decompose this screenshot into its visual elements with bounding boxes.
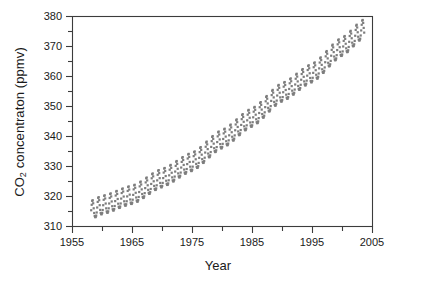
data-point [167,182,169,184]
data-point [234,134,236,136]
x-tick-label: 1965 [110,237,154,248]
data-point [315,69,317,71]
x-tick-label: 2005 [350,237,394,248]
data-point [149,191,151,193]
data-point [297,80,299,82]
data-point [165,175,167,177]
data-point [248,112,250,114]
data-point [219,138,221,140]
data-point [309,77,311,79]
data-point [156,179,158,181]
data-point [102,209,104,211]
data-point [221,146,223,148]
data-point [205,146,207,148]
data-point [305,83,307,85]
data-point [288,88,290,90]
data-point [99,204,101,206]
data-point [325,55,327,57]
co2-concentration-chart: CO2 concentraton (ppmv) Year 31032033034… [0,0,424,286]
data-point [300,79,302,81]
data-point [146,179,148,181]
data-point [357,31,359,33]
data-point [231,131,233,133]
data-point [353,43,355,45]
data-point [255,114,257,116]
data-point [339,51,341,53]
data-point [212,135,214,137]
data-point [153,185,155,187]
data-point [272,89,274,91]
data-point [335,57,337,59]
data-point [203,160,205,162]
x-tick-label: 1995 [290,237,334,248]
data-point [140,180,142,182]
data-point [224,128,226,130]
data-point [147,184,149,186]
data-point [213,147,215,149]
data-point [210,151,212,153]
data-point [320,59,322,61]
data-point [104,197,106,199]
data-point [321,64,323,66]
data-point [265,100,267,102]
data-point [188,153,190,155]
data-point [155,187,157,189]
data-point [141,188,143,190]
data-point [229,128,231,130]
data-point [174,175,176,177]
data-point [215,149,217,151]
data-point [126,195,128,197]
data-point [301,73,303,75]
data-point [108,202,110,204]
data-point [116,190,118,192]
data-point [200,146,202,148]
data-point [192,161,194,163]
data-point [111,200,113,202]
data-point [271,94,273,96]
data-point [186,163,188,165]
data-point [288,93,290,95]
data-point [290,80,292,82]
data-point [146,176,148,178]
data-point [239,132,241,134]
data-point [336,49,338,51]
data-point [120,202,122,204]
data-point [144,187,146,189]
data-point [186,168,188,170]
data-point [308,64,310,66]
data-point [359,38,361,40]
data-point [237,126,239,128]
data-point [138,196,140,198]
data-point [120,197,122,199]
data-point [176,163,178,165]
data-point [150,183,152,185]
data-point [137,199,139,201]
data-point [183,168,185,170]
data-point [114,200,116,202]
data-point [161,185,163,187]
data-point [344,38,346,40]
data-point [308,67,310,69]
data-point [134,184,136,186]
data-point [213,143,215,145]
data-point [313,66,315,68]
data-point [138,191,140,193]
data-point [312,72,314,74]
y-tick-label: 330 [28,161,62,172]
data-point [117,203,119,205]
data-point [354,40,356,42]
data-point [338,38,340,40]
data-point [321,68,323,70]
data-point [235,123,237,125]
data-point [255,118,257,120]
y-tick-label: 380 [28,11,62,22]
data-point [228,139,230,141]
data-point [270,100,272,102]
data-point [129,194,131,196]
data-point [182,159,184,161]
data-point [139,185,141,187]
data-point [99,209,101,211]
y-tick-label: 350 [28,101,62,112]
data-point [183,164,185,166]
data-point [173,179,175,181]
